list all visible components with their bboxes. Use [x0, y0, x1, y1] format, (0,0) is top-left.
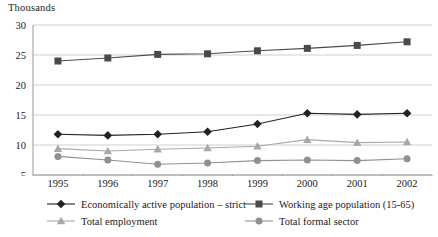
y-tick-label: 30 — [16, 20, 27, 31]
data-point — [403, 109, 412, 118]
series-3 — [54, 153, 410, 168]
plot-area: 51015202530 — [0, 16, 438, 176]
legend-item-0[interactable]: Economically active population – strict — [46, 198, 246, 210]
x-tick-label: 1998 — [183, 178, 233, 189]
data-point — [54, 144, 62, 151]
data-point — [54, 153, 61, 160]
data-point — [303, 109, 312, 118]
data-point — [354, 157, 361, 164]
data-point — [254, 47, 261, 54]
y-tick-label: 5 — [21, 170, 26, 176]
data-point — [353, 110, 362, 119]
data-point — [404, 155, 411, 162]
y-tick-label: 10 — [16, 140, 27, 151]
data-point — [57, 200, 66, 209]
data-point — [203, 128, 212, 137]
data-point — [154, 161, 161, 168]
series-1 — [54, 38, 410, 64]
chart-canvas: 51015202530 — [0, 16, 438, 176]
data-point — [204, 160, 211, 167]
x-axis-labels: 19951996199719981999200020012002 — [0, 178, 438, 194]
data-point — [304, 157, 311, 164]
y-tick-label: 20 — [16, 80, 27, 91]
legend-item-1[interactable]: Working age population (15-65) — [244, 198, 414, 210]
x-tick-label: 1996 — [83, 178, 133, 189]
data-point — [54, 130, 63, 139]
data-point — [303, 135, 311, 142]
legend-label: Total formal sector — [279, 216, 359, 227]
legend-label: Working age population (15-65) — [279, 199, 414, 210]
data-point — [153, 130, 162, 139]
chart-legend: Economically active population – strictW… — [0, 198, 438, 236]
legend-item-2[interactable]: Total employment — [46, 215, 158, 227]
data-point — [104, 131, 113, 140]
x-tick-label: 1995 — [33, 178, 83, 189]
data-point — [256, 201, 263, 208]
x-tick-label: 2001 — [332, 178, 382, 189]
data-point — [204, 50, 211, 57]
data-point — [254, 157, 261, 164]
legend-marker-triangle-icon — [46, 215, 76, 227]
x-tick-label: 2000 — [282, 178, 332, 189]
data-point — [304, 45, 311, 52]
data-point — [253, 120, 262, 129]
legend-marker-diamond-icon — [46, 198, 76, 210]
legend-item-3[interactable]: Total formal sector — [244, 215, 359, 227]
chart-figure: Thousands 51015202530 199519961997199819… — [0, 0, 438, 237]
x-tick-label: 1997 — [133, 178, 183, 189]
legend-label: Total employment — [81, 216, 158, 227]
data-point — [256, 218, 263, 225]
legend-marker-square-icon — [244, 198, 274, 210]
y-axis-title: Thousands — [8, 2, 55, 13]
data-point — [104, 55, 111, 62]
legend-marker-circle-icon — [244, 215, 274, 227]
data-point — [104, 157, 111, 164]
x-tick-label: 2002 — [382, 178, 432, 189]
series-line — [58, 113, 407, 135]
data-point — [54, 58, 61, 65]
y-tick-label: 15 — [16, 110, 27, 121]
x-tick-label: 1999 — [232, 178, 282, 189]
data-point — [354, 42, 361, 49]
data-point — [404, 38, 411, 45]
series-0 — [54, 109, 412, 140]
y-tick-label: 25 — [16, 50, 27, 61]
legend-label: Economically active population – strict — [81, 199, 246, 210]
data-point — [154, 51, 161, 58]
